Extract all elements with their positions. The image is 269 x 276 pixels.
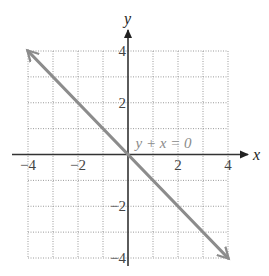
x-tick-label: −2 <box>70 157 86 173</box>
y-axis-label: y <box>122 10 132 28</box>
x-tick-label: 4 <box>224 157 232 173</box>
equation-label: y + x = 0 <box>134 135 193 151</box>
chart-canvas: xy −4−22442−2−4 y + x = 0 <box>0 0 269 276</box>
y-tick-label: 2 <box>119 95 127 111</box>
x-axis-label: x <box>252 146 260 163</box>
y-tick-label: 4 <box>119 43 127 59</box>
y-tick-label: −4 <box>110 250 126 266</box>
x-tick-label: 2 <box>174 157 182 173</box>
x-tick-label: −4 <box>20 157 36 173</box>
annotations: y + x = 0 <box>134 135 193 151</box>
y-tick-label: −2 <box>110 198 126 214</box>
